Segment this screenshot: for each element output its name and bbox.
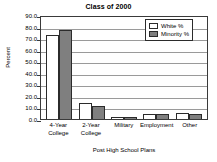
legend-item[interactable]: Minority % xyxy=(149,30,189,38)
bar xyxy=(176,113,189,119)
y-tick-label: 30.0 xyxy=(12,82,37,88)
x-tick-label: Other xyxy=(173,122,206,142)
y-tick-mark xyxy=(37,75,41,76)
y-tick-mark xyxy=(37,40,41,41)
y-tick-label: 20.0 xyxy=(12,94,37,100)
bar xyxy=(189,114,202,119)
y-tick-label: 50.0 xyxy=(12,59,37,65)
y-tick-mark xyxy=(37,98,41,99)
y-tick-mark xyxy=(37,52,41,53)
y-tick-label: 80.0 xyxy=(12,25,37,31)
chart-legend: White %Minority % xyxy=(145,19,193,41)
bar-group xyxy=(43,17,75,119)
bar xyxy=(59,30,72,119)
bar xyxy=(156,114,169,119)
bar-group xyxy=(75,17,107,119)
y-tick-label: 0.0 xyxy=(12,117,37,123)
bar xyxy=(46,35,59,119)
x-tick-label: Employment xyxy=(140,122,173,142)
x-tick-label: Military xyxy=(107,122,140,142)
bar xyxy=(143,114,156,119)
y-tick-mark xyxy=(37,17,41,18)
x-axis-tick-labels: 4-Year College2-Year CollegeMilitaryEmpl… xyxy=(40,122,208,142)
y-tick-label: 40.0 xyxy=(12,71,37,77)
bar xyxy=(92,106,105,119)
legend-label: Minority % xyxy=(161,31,189,38)
bar xyxy=(124,117,137,119)
y-tick-label: 60.0 xyxy=(12,48,37,54)
y-axis-label: Percent xyxy=(5,36,12,80)
y-tick-label: 70.0 xyxy=(12,36,37,42)
y-tick-mark xyxy=(37,109,41,110)
bar-group xyxy=(108,17,140,119)
bar xyxy=(111,117,124,119)
y-tick-label: 10.0 xyxy=(12,105,37,111)
legend-label: White % xyxy=(161,23,183,30)
legend-item[interactable]: White % xyxy=(149,22,189,30)
y-tick-label: 90.0 xyxy=(12,13,37,19)
y-tick-mark xyxy=(37,86,41,87)
bar-chart: Class of 2000 Percent 90.080.070.060.050… xyxy=(0,0,217,162)
legend-swatch-icon xyxy=(149,23,158,29)
x-axis-label: Post High School Plans xyxy=(40,147,208,154)
y-axis-tick-labels: 90.080.070.060.050.040.030.020.010.00.0 xyxy=(12,16,37,120)
chart-title: Class of 2000 xyxy=(0,3,217,11)
y-tick-mark xyxy=(37,63,41,64)
legend-swatch-icon xyxy=(149,31,158,37)
x-tick-label: 4-Year College xyxy=(42,122,75,142)
bar xyxy=(79,103,92,119)
x-tick-label: 2-Year College xyxy=(75,122,108,142)
y-tick-mark xyxy=(37,29,41,30)
